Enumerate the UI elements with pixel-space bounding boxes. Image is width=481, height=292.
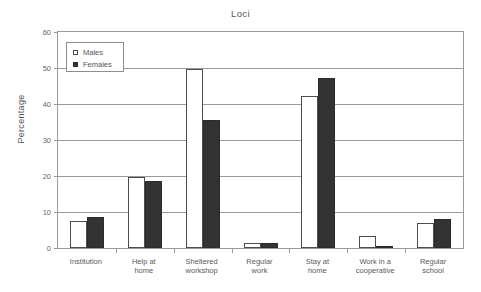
y-tick-mark bbox=[54, 176, 58, 177]
x-category-label: Stay at home bbox=[288, 257, 346, 275]
bar-females-6 bbox=[434, 219, 451, 248]
y-tick-label: 40 bbox=[43, 100, 51, 109]
x-tick-mark bbox=[405, 248, 406, 253]
x-tick-mark bbox=[289, 248, 290, 253]
y-tick-label: 30 bbox=[43, 136, 51, 145]
y-tick-mark bbox=[54, 140, 58, 141]
gridline bbox=[58, 140, 463, 141]
x-tick-mark bbox=[116, 248, 117, 253]
bar-males-2 bbox=[186, 69, 203, 248]
bar-females-1 bbox=[145, 181, 162, 248]
bar-males-4 bbox=[301, 96, 318, 248]
y-tick-label: 10 bbox=[43, 208, 51, 217]
bar-males-3 bbox=[244, 243, 261, 248]
bar-males-5 bbox=[359, 236, 376, 248]
bar-females-4 bbox=[318, 78, 335, 248]
hollow-square-icon bbox=[73, 50, 78, 55]
x-category-label: Work in a cooperative bbox=[346, 257, 404, 275]
y-tick-mark bbox=[54, 32, 58, 33]
bar-males-6 bbox=[417, 223, 434, 248]
bar-females-0 bbox=[87, 217, 104, 248]
bar-females-3 bbox=[261, 243, 278, 248]
page-title: Loci bbox=[0, 8, 481, 19]
x-tick-mark bbox=[347, 248, 348, 253]
y-tick-mark bbox=[54, 104, 58, 105]
gridline bbox=[58, 212, 463, 213]
x-category-label: Sheltered workshop bbox=[173, 257, 231, 275]
bar-females-5 bbox=[376, 246, 393, 248]
y-tick-mark bbox=[54, 212, 58, 213]
bar-females-2 bbox=[203, 120, 220, 248]
legend-entry-females: Females bbox=[73, 59, 123, 69]
bar-chart-figure: Loci Percentage 0102030405060 Males Fema… bbox=[0, 0, 481, 292]
y-tick-mark bbox=[54, 68, 58, 69]
bar-males-0 bbox=[70, 221, 87, 248]
y-tick-label: 50 bbox=[43, 64, 51, 73]
gridline bbox=[58, 176, 463, 177]
y-tick-label: 60 bbox=[43, 28, 51, 37]
legend-entry-males: Males bbox=[73, 47, 123, 57]
y-axis-title: Percentage bbox=[16, 64, 26, 174]
gridline bbox=[58, 104, 463, 105]
x-category-label: Regular work bbox=[231, 257, 289, 275]
x-tick-mark bbox=[232, 248, 233, 253]
bar-males-1 bbox=[128, 177, 145, 248]
y-tick-label: 20 bbox=[43, 172, 51, 181]
y-tick-label: 0 bbox=[47, 244, 51, 253]
x-category-label: Regular school bbox=[404, 257, 462, 275]
x-category-label: Help at home bbox=[115, 257, 173, 275]
y-tick-mark bbox=[54, 248, 58, 249]
x-category-label: Institution bbox=[57, 257, 115, 266]
x-tick-mark bbox=[174, 248, 175, 253]
filled-square-icon bbox=[73, 62, 78, 67]
chart-legend: Males Females bbox=[66, 42, 124, 72]
legend-label-males: Males bbox=[83, 48, 103, 57]
legend-label-females: Females bbox=[83, 60, 112, 69]
